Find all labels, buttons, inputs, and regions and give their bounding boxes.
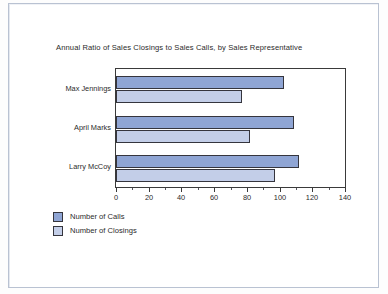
- axis-tick-minor: [296, 188, 297, 190]
- category-label: Larry McCoy: [69, 162, 111, 171]
- axis-tick-label: 60: [210, 193, 218, 202]
- axis-tick-major: [345, 188, 346, 192]
- bar-number-of-calls-larry-mccoy: [116, 155, 299, 168]
- axis-tick-label: 0: [114, 193, 118, 202]
- axis-tick-minor: [198, 188, 199, 190]
- axis-tick-label: 120: [306, 193, 318, 202]
- axis-tick-label: 20: [145, 193, 153, 202]
- category-label: April Marks: [74, 123, 111, 132]
- bar-number-of-calls-max-jennings: [116, 76, 284, 89]
- axis-tick-label: 140: [339, 193, 351, 202]
- axis-tick-major: [149, 188, 150, 192]
- bar-number-of-calls-april-marks: [116, 116, 294, 129]
- axis-tick-major: [181, 188, 182, 192]
- axis-tick-major: [280, 188, 281, 192]
- category-label: Max Jennings: [65, 84, 111, 93]
- legend-label: Number of Calls: [70, 212, 124, 221]
- bar-number-of-closings-april-marks: [116, 130, 250, 143]
- category-axis-labels: Max JenningsApril MarksLarry McCoy: [29, 68, 111, 188]
- legend-swatch-icon: [53, 212, 63, 222]
- legend-item[interactable]: Number of Closings: [53, 224, 137, 237]
- plot-area: [115, 68, 346, 188]
- axis-tick-label: 40: [177, 193, 185, 202]
- axis-tick-major: [214, 188, 215, 192]
- axis-tick-label: 100: [274, 193, 286, 202]
- axis-tick-minor: [263, 188, 264, 190]
- bar-number-of-closings-larry-mccoy: [116, 169, 275, 182]
- axis-tick-minor: [329, 188, 330, 190]
- legend-swatch-icon: [53, 226, 63, 236]
- axis-tick-label: 80: [243, 193, 251, 202]
- screenshot-page: Annual Ratio of Sales Closings to Sales …: [0, 0, 388, 294]
- chart-title: Annual Ratio of Sales Closings to Sales …: [56, 43, 366, 52]
- chart-legend: Number of CallsNumber of Closings: [53, 210, 137, 238]
- legend-item[interactable]: Number of Calls: [53, 210, 137, 223]
- legend-label: Number of Closings: [70, 226, 137, 235]
- axis-tick-minor: [231, 188, 232, 190]
- axis-tick-major: [312, 188, 313, 192]
- bar-number-of-closings-max-jennings: [116, 90, 242, 103]
- axis-tick-minor: [132, 188, 133, 190]
- value-axis: 020406080100120140: [115, 188, 346, 210]
- axis-tick-major: [116, 188, 117, 192]
- chart-card: Annual Ratio of Sales Closings to Sales …: [8, 3, 379, 288]
- axis-tick-minor: [165, 188, 166, 190]
- axis-tick-major: [247, 188, 248, 192]
